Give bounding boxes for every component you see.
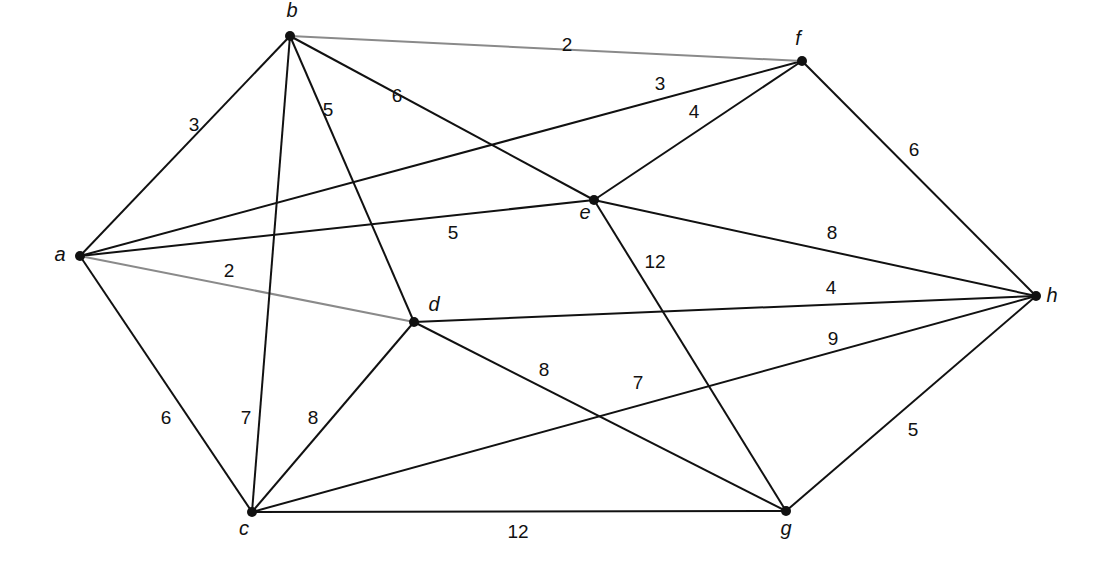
edge-weight-f-h: 6 <box>909 139 920 160</box>
node-label-e: e <box>579 201 590 223</box>
node-label-d: d <box>428 293 440 315</box>
edge-a-c <box>80 256 252 512</box>
node-h <box>1031 291 1041 301</box>
edge-c-h <box>252 296 1036 512</box>
node-g <box>781 506 791 516</box>
node-label-g: g <box>780 517 791 539</box>
edge-e-h <box>594 200 1036 296</box>
edge-weight-g-h: 5 <box>908 419 919 440</box>
node-label-f: f <box>795 27 803 49</box>
edge-weight-a-c: 6 <box>161 407 172 428</box>
node-b <box>285 31 295 41</box>
weighted-graph-diagram: 3352626574681248891257 abcdefgh <box>0 0 1111 574</box>
node-f <box>797 56 807 66</box>
edge-weight-c-g: 12 <box>507 521 528 542</box>
edge-weight-e-f: 4 <box>689 101 700 122</box>
edge-a-f <box>80 61 802 256</box>
edge-weight-b-e: 6 <box>392 85 403 106</box>
edge-weight-a-b: 3 <box>189 114 200 135</box>
edge-e-f <box>594 61 802 200</box>
edge-c-d <box>252 322 414 512</box>
edge-a-e <box>80 200 594 256</box>
node-labels: abcdefgh <box>54 0 1057 539</box>
node-d <box>409 317 419 327</box>
edge-a-b <box>80 36 290 256</box>
edge-weight-c-h: 9 <box>828 328 839 349</box>
edge-b-f <box>290 36 802 61</box>
extra-weight-label: 7 <box>633 372 644 393</box>
edge-weight-e-g: 12 <box>644 251 665 272</box>
edge-b-c <box>252 36 290 512</box>
nodes-group <box>75 31 1041 517</box>
edge-b-d <box>290 36 414 322</box>
edge-weight-d-h: 4 <box>826 277 837 298</box>
edge-weight-e-h: 8 <box>827 222 838 243</box>
edge-weight-labels: 3352626574681248891257 <box>161 34 920 542</box>
node-a <box>75 251 85 261</box>
edge-weight-a-d: 2 <box>224 260 235 281</box>
edge-weight-c-d: 8 <box>308 407 319 428</box>
node-c <box>247 507 257 517</box>
edge-weight-b-d: 5 <box>323 99 334 120</box>
edge-weight-b-c: 7 <box>241 407 252 428</box>
edge-weight-b-f: 2 <box>562 34 573 55</box>
edge-e-g <box>594 200 786 511</box>
edge-weight-a-e: 5 <box>448 222 459 243</box>
edge-weight-d-g: 8 <box>539 359 550 380</box>
edge-g-h <box>786 296 1036 511</box>
edge-f-h <box>802 61 1036 296</box>
node-label-b: b <box>286 0 297 21</box>
edge-weight-a-f: 3 <box>655 73 666 94</box>
edge-b-e <box>290 36 594 200</box>
edge-d-h <box>414 296 1036 322</box>
node-label-a: a <box>54 243 65 265</box>
node-label-c: c <box>239 517 249 539</box>
edge-c-g <box>252 511 786 512</box>
edge-a-d <box>80 256 414 322</box>
node-label-h: h <box>1046 284 1057 306</box>
